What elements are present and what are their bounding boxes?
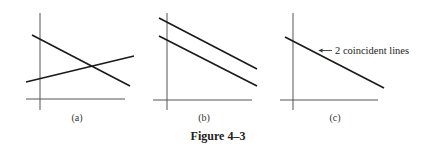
figure-caption: Figure 4–3 <box>191 129 246 143</box>
figure-4-3: (a) (b) 2 coincident lines (c) Figure 4–… <box>0 0 435 144</box>
panel-label-b: (b) <box>198 112 210 124</box>
arrow-left-icon <box>319 49 333 53</box>
panel-a: (a) <box>26 13 134 124</box>
coincident-lines-annotation: 2 coincident lines <box>335 45 409 56</box>
panel-label-c: (c) <box>329 112 340 124</box>
panel-c: 2 coincident lines (c) <box>280 13 409 124</box>
panel-b: (b) <box>153 13 257 124</box>
panel-label-a: (a) <box>71 112 82 124</box>
